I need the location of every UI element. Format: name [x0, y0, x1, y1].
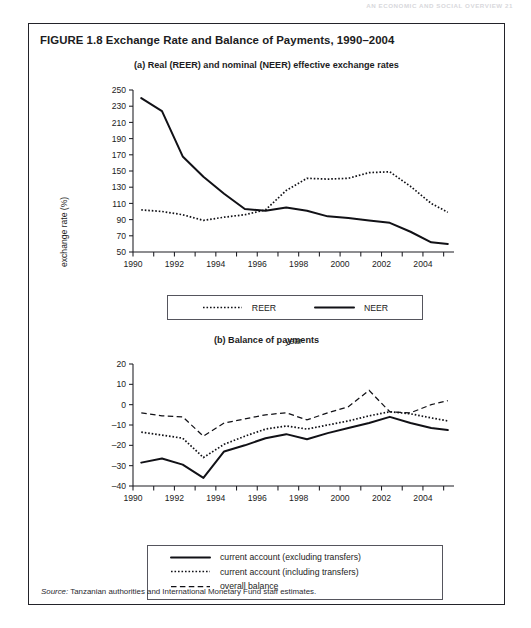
- panel-b-svg: –40–30–20–100102019901992199419961998200…: [29, 356, 506, 516]
- svg-text:2002: 2002: [372, 493, 391, 503]
- svg-text:1998: 1998: [289, 259, 308, 269]
- svg-text:2004: 2004: [413, 259, 432, 269]
- svg-text:2000: 2000: [331, 493, 350, 503]
- svg-text:1996: 1996: [248, 493, 267, 503]
- panel-a-legend-row: REER NEER: [168, 296, 422, 319]
- svg-text:1992: 1992: [165, 493, 184, 503]
- legend-label-ca-including: current account (including transfers): [220, 567, 359, 577]
- legend-label-reer: REER: [252, 303, 276, 313]
- legend-label-neer: NEER: [364, 303, 388, 313]
- svg-text:1998: 1998: [289, 493, 308, 503]
- svg-text:–30: –30: [112, 461, 127, 471]
- panel-a-svg: 5070901101301501701902102302501990199219…: [29, 82, 506, 282]
- panel-a-y-axis-title: exchange rate (%): [59, 197, 69, 267]
- svg-text:90: 90: [116, 215, 126, 225]
- svg-text:1994: 1994: [206, 493, 225, 503]
- svg-text:0: 0: [121, 400, 126, 410]
- legend-entry-ca-including: current account (including transfers): [170, 567, 442, 577]
- svg-text:110: 110: [112, 199, 126, 209]
- svg-text:1994: 1994: [206, 259, 225, 269]
- svg-text:230: 230: [112, 101, 127, 111]
- svg-text:–20: –20: [112, 440, 127, 450]
- svg-text:1992: 1992: [165, 259, 184, 269]
- svg-text:–40: –40: [112, 481, 127, 491]
- legend-label-ca-excluding: current account (excluding transfers): [220, 552, 361, 562]
- panel-b-subtitle: (b) Balance of payments: [29, 335, 504, 345]
- svg-text:2004: 2004: [413, 493, 432, 503]
- svg-text:20: 20: [116, 359, 126, 369]
- svg-text:190: 190: [112, 134, 127, 144]
- svg-text:2002: 2002: [372, 259, 391, 269]
- svg-text:150: 150: [112, 166, 127, 176]
- current-account-including-line-icon: [170, 567, 211, 576]
- svg-text:1990: 1990: [123, 493, 142, 503]
- current-account-excluding-line-icon: [170, 553, 211, 562]
- svg-text:–10: –10: [112, 420, 127, 430]
- svg-text:210: 210: [112, 118, 127, 128]
- figure-title: FIGURE 1.8 Exchange Rate and Balance of …: [40, 34, 394, 46]
- svg-text:1990: 1990: [123, 259, 142, 269]
- running-head: AN ECONOMIC AND SOCIAL OVERVIEW 21: [366, 2, 513, 9]
- svg-text:250: 250: [112, 85, 127, 95]
- figure-box: FIGURE 1.8 Exchange Rate and Balance of …: [28, 23, 505, 605]
- legend-entry-ca-excluding: current account (excluding transfers): [170, 552, 442, 562]
- legend-entry-reer: REER: [202, 303, 276, 313]
- source-label: Source:: [41, 587, 68, 596]
- reer-line-icon: [202, 303, 243, 312]
- svg-text:170: 170: [112, 150, 127, 160]
- panel-b-plot: % of GDP year –40–30–20–1001020199019921…: [29, 356, 504, 516]
- panel-a-subtitle: (a) Real (REER) and nominal (NEER) effec…: [29, 60, 504, 70]
- source-note: Source: Tanzanian authorities and Intern…: [41, 587, 316, 596]
- svg-text:10: 10: [116, 379, 126, 389]
- svg-text:2000: 2000: [331, 259, 350, 269]
- source-text: Tanzanian authorities and International …: [68, 587, 316, 596]
- svg-text:70: 70: [116, 231, 126, 241]
- legend-entry-neer: NEER: [314, 303, 388, 313]
- svg-text:130: 130: [112, 182, 127, 192]
- svg-text:1996: 1996: [248, 259, 267, 269]
- neer-line-icon: [314, 303, 355, 312]
- panel-a-legend: REER NEER: [167, 295, 423, 320]
- svg-text:50: 50: [116, 247, 126, 257]
- panel-a-plot: exchange rate (%) year 50709011013015017…: [29, 82, 504, 282]
